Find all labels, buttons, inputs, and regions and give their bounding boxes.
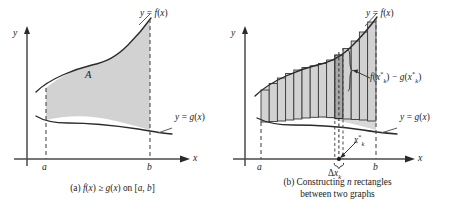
lower-curve-label: y = g(x) xyxy=(175,112,205,122)
riemann-rect xyxy=(286,74,294,121)
x-axis-arrowhead xyxy=(405,156,415,163)
tick-label-b: b xyxy=(147,161,152,172)
riemann-rect xyxy=(327,60,335,118)
riemann-rectangles xyxy=(261,22,376,122)
tick-label-a: a xyxy=(257,161,262,172)
x-axis-arrowhead xyxy=(180,156,190,163)
riemann-rect xyxy=(310,66,318,118)
figure-root: y x a b A y = f(x) y = g(x) (a) f(x) ≥ g… xyxy=(0,0,450,213)
y-axis-label: y xyxy=(231,27,235,38)
caption-a-line-1: (a) f(x) ≥ g(x) on [a, b] xyxy=(0,182,225,194)
y-axis-arrowhead xyxy=(24,26,30,34)
rectangle-height-label: f(x*k) − g(x*k) xyxy=(370,70,421,84)
y-axis-label: y xyxy=(13,27,17,38)
leader-line-g xyxy=(158,128,172,133)
caption-a: (a) f(x) ≥ g(x) on [a, b] xyxy=(0,182,225,194)
panel-a: y x a b A y = f(x) y = g(x) (a) f(x) ≥ g… xyxy=(0,0,225,213)
riemann-rect xyxy=(318,64,326,118)
upper-curve-label: y = f(x) xyxy=(140,8,168,18)
caption-b: (b) Constructing n rectangles between tw… xyxy=(225,176,450,200)
panel-b-graphic xyxy=(225,0,450,180)
lower-curve-label: y = g(x) xyxy=(400,112,430,122)
riemann-rect xyxy=(277,78,285,121)
panel-a-graphic xyxy=(0,0,225,180)
panel-b: y x a b y = f(x) y = g(x) f(x*k) − g(x*k… xyxy=(225,0,450,213)
riemann-rect xyxy=(294,70,302,119)
sample-point-label: x*k xyxy=(354,133,364,147)
riemann-rect xyxy=(269,84,277,122)
riemann-rect xyxy=(261,90,269,122)
riemann-rect xyxy=(302,68,310,119)
region-label-A: A xyxy=(85,69,92,80)
curve-g xyxy=(36,116,172,134)
caption-b-line-1: (b) Constructing n rectangles xyxy=(225,176,450,188)
y-axis-arrowhead xyxy=(242,26,248,34)
upper-curve-label: y = f(x) xyxy=(366,8,394,18)
caption-b-line-2: between two graphs xyxy=(225,188,450,200)
tick-label-a: a xyxy=(42,161,47,172)
leader-line-g xyxy=(381,128,397,133)
tick-label-b: b xyxy=(373,161,378,172)
x-axis-label: x xyxy=(418,152,422,163)
x-axis-label: x xyxy=(193,152,197,163)
riemann-rect xyxy=(351,41,359,120)
